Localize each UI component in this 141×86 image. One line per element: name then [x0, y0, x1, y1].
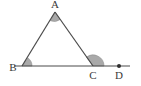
geometry-canvas: A B C D	[0, 0, 141, 86]
side-AB	[22, 12, 55, 66]
vertex-label-A: A	[51, 0, 59, 10]
side-AC	[55, 12, 93, 66]
angle-B-sector	[22, 58, 32, 66]
geometry-figure: A B C D	[0, 0, 141, 86]
vertex-label-B: B	[9, 61, 16, 73]
vertex-label-D: D	[115, 69, 123, 81]
point-D-dot-icon	[117, 64, 121, 68]
vertex-label-C: C	[89, 69, 96, 81]
